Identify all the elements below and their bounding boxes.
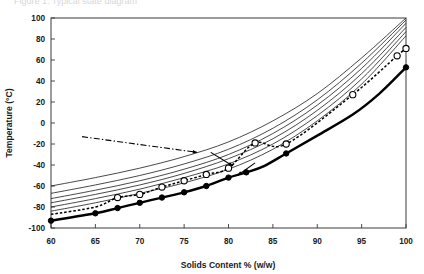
series-thin-curve-3 [51,23,406,198]
filled-circle-marker [403,65,408,70]
open-circle-marker [181,178,187,184]
y-axis-title: Temperature (°C) [4,88,14,157]
filled-circle-marker [93,211,98,216]
x-axis-title: Solids Content % (w/w) [181,260,276,270]
open-circle-marker [394,53,400,59]
open-circle-marker [137,191,143,197]
x-tick-label: 100 [399,237,413,246]
filled-circle-marker [115,205,120,210]
x-tick-label: 85 [268,237,278,246]
series-thin-curve-1 [51,18,406,186]
x-axis-tick-labels: 6065707580859095100 [46,237,413,246]
data-marker-layer [48,45,409,223]
y-tick-label: 40 [36,77,46,86]
open-circle-marker [203,171,209,177]
x-tick-label: 70 [135,237,145,246]
open-circle-marker [114,194,120,200]
open-circle-marker [252,140,258,146]
filled-circle-marker [283,151,288,156]
y-tick-label: -80 [33,203,45,212]
x-tick-label: 75 [180,237,190,246]
filled-circle-marker [204,183,209,188]
filled-circle-marker [226,175,231,180]
y-tick-label: -60 [33,182,45,191]
y-tick-label: -40 [33,161,45,170]
filled-circle-marker [181,190,186,195]
open-circle-marker [350,92,356,98]
x-tick-label: 80 [224,237,234,246]
series-freezing-curve-filled-circles [51,67,406,220]
y-tick-label: 100 [31,14,45,23]
data-series-layer [51,18,406,221]
filled-circle-marker [159,195,164,200]
y-tick-label: 20 [36,98,46,107]
y-tick-label: 0 [40,119,45,128]
open-circle-marker [225,165,231,171]
series-glass-transition-open-circles [51,48,406,214]
state-diagram-figure: Figure 1. Typical state diagram -100-80-… [0,0,424,274]
x-tick-label: 65 [91,237,101,246]
filled-circle-marker [48,218,53,223]
y-tick-label: -20 [33,140,45,149]
series-thin-curve-6 [51,36,406,211]
y-tick-label: -100 [29,224,46,233]
filled-circle-marker [137,200,142,205]
x-tick-label: 60 [46,237,56,246]
x-tick-label: 95 [357,237,367,246]
open-circle-marker [283,141,289,147]
open-circle-marker [403,45,409,51]
y-axis-tick-labels: -100-80-60-40-20020406080100 [29,14,46,233]
annotation-dash-dot-leader-arrow [82,137,197,153]
x-tick-label: 90 [313,237,323,246]
ghost-caption-text: Figure 1. Typical state diagram [14,0,137,6]
open-circle-marker [159,184,165,190]
y-tick-label: 60 [36,56,46,65]
chart-canvas: Figure 1. Typical state diagram -100-80-… [0,0,424,274]
y-tick-label: 80 [36,35,46,44]
